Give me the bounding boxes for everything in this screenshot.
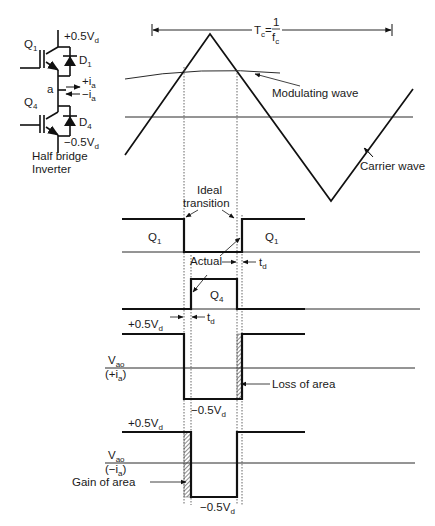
q1-right-label: Q1 (265, 231, 279, 246)
period-label: Tc= (254, 24, 272, 39)
q1-left-label: Q1 (148, 231, 162, 246)
vao-pos-high-label: +0.5Vd (128, 318, 163, 333)
vao-pos-current-label: (+ia) (105, 368, 127, 383)
d4-label: D4 (79, 116, 92, 131)
d1-diode-icon (64, 56, 76, 66)
node-a-label: a (47, 83, 54, 95)
vao-pos-low-label: −0.5Vd (191, 404, 226, 419)
circuit-title-line1: Half bridge (32, 150, 88, 162)
half-bridge-circuit: Q1 +0.5Vd D1 a +ia −ia Q4 D4 −0.5Vd Half… (20, 30, 99, 175)
td-label-2: td (207, 311, 215, 326)
carrier-comparison-plot: Tc= 1 fc Modulating wave Carrier wave (125, 16, 425, 201)
negative-current-label: −ia (82, 88, 96, 103)
ideal-label-line2: transition (183, 197, 230, 209)
vao-neg-high-label: +0.5Vd (128, 417, 163, 432)
circuit-title-line2: Inverter (32, 163, 71, 175)
td-label: td (259, 256, 267, 271)
top-rail-label: +0.5Vd (64, 30, 99, 45)
vao-positive-current-waveform: +0.5Vd −0.5Vd Vao (+ia) Loss of area (105, 318, 415, 419)
period-numerator: 1 (273, 16, 279, 28)
ideal-label-line1: Ideal (197, 184, 222, 196)
bottom-rail-label: −0.5Vd (64, 136, 99, 151)
q4-gate-signal: Q4 (122, 279, 420, 309)
vao-neg-label: Vao (108, 449, 125, 464)
gain-of-area-label: Gain of area (72, 476, 136, 488)
actual-label: Actual (190, 255, 222, 267)
q4-label: Q4 (24, 96, 38, 111)
q4-waveform-label: Q4 (210, 289, 224, 304)
vao-neg-low-label: −0.5Vd (200, 501, 235, 516)
carrier-wave-label: Carrier wave (360, 160, 425, 172)
vao-negative-current-waveform: +0.5Vd −0.5Vd Vao (−ia) Gain of area (72, 417, 415, 516)
modulating-wave-label: Modulating wave (272, 87, 358, 99)
vao-pos-label: Vao (108, 354, 125, 369)
d1-label: D1 (79, 54, 92, 69)
period-denominator: fc (272, 31, 279, 46)
q1-label: Q1 (24, 38, 38, 53)
q1-gate-signal: Q1 Q1 (122, 219, 420, 252)
pwm-dead-time-diagram: Q1 +0.5Vd D1 a +ia −ia Q4 D4 −0.5Vd Half… (0, 0, 435, 526)
loss-of-area-label: Loss of area (272, 378, 336, 390)
d4-diode-icon (64, 116, 76, 126)
transition-guides (184, 67, 242, 505)
